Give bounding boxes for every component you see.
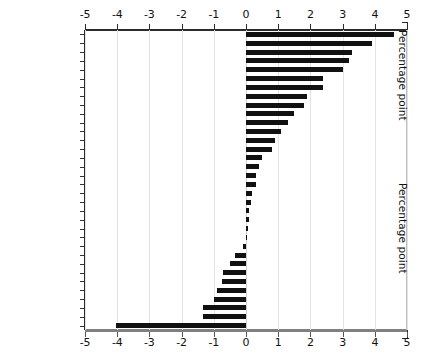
xtick-top-3 xyxy=(343,24,344,29)
axis-title-percentage-point-top: Percentage point xyxy=(397,30,409,121)
xtick-top-2 xyxy=(310,24,311,29)
xticklabel-top-1: 1 xyxy=(275,8,282,21)
ytick-italy xyxy=(80,149,84,150)
xticklabel-bottom--4: -4 xyxy=(112,336,123,349)
ytick-germany xyxy=(80,317,84,318)
xtick-top-1 xyxy=(278,24,279,29)
ytick-new-zealand xyxy=(80,299,84,300)
ytick-chile xyxy=(80,246,84,247)
ytick-netherlands xyxy=(80,290,84,291)
ytick-belgium xyxy=(80,211,84,212)
ytick-finland xyxy=(80,176,84,177)
xtick-top--1 xyxy=(214,24,215,29)
ytick-iceland xyxy=(80,70,84,71)
xtick-top--4 xyxy=(117,24,118,29)
ytick-slovakia xyxy=(80,52,84,53)
horizontal-bar-chart: -5-5-4-4-3-3-2-2-1-1001122334455 Portuga… xyxy=(0,0,442,357)
ytick-luxembourg xyxy=(80,61,84,62)
ytick-greece xyxy=(80,202,84,203)
xtick-top--5 xyxy=(85,24,86,29)
xticklabel-bottom-4: 4 xyxy=(371,336,378,349)
xticklabel-bottom-0: 0 xyxy=(243,336,250,349)
xticklabel-top--3: -3 xyxy=(144,8,155,21)
xtick-top--3 xyxy=(149,24,150,29)
ytick-czech-republic xyxy=(80,193,84,194)
xticklabel-bottom--2: -2 xyxy=(176,336,187,349)
xticklabel-bottom--3: -3 xyxy=(144,336,155,349)
ytick-slovenia xyxy=(80,220,84,221)
ytick-israel xyxy=(80,264,84,265)
ytick-usa xyxy=(80,123,84,124)
ytick-mexico xyxy=(80,43,84,44)
xticklabel-bottom--1: -1 xyxy=(209,336,220,349)
xticklabel-bottom--5: -5 xyxy=(80,336,91,349)
xticklabel-top--2: -2 xyxy=(176,8,187,21)
ytick-denmark xyxy=(80,308,84,309)
ytick-japan xyxy=(80,79,84,80)
ytick-australia xyxy=(80,167,84,168)
xticklabel-top--4: -4 xyxy=(112,8,123,21)
ytick-portugal xyxy=(80,34,84,35)
xticklabel-bottom-5: 5 xyxy=(404,336,411,349)
xticklabel-top-3: 3 xyxy=(339,8,346,21)
ytick-ireland xyxy=(80,105,84,106)
xticklabel-bottom-2: 2 xyxy=(307,336,314,349)
axis-title-percentage-point-bottom: Percentage point xyxy=(397,183,409,274)
xticklabel-top-4: 4 xyxy=(371,8,378,21)
ytick-sweden xyxy=(80,255,84,256)
category-labels-layer: PortugalMexicoSlovakiaLuxembourgIcelandJ… xyxy=(0,30,442,330)
xtick-top-4 xyxy=(375,24,376,29)
ytick-poland xyxy=(80,114,84,115)
xticklabel-top--1: -1 xyxy=(209,8,220,21)
ytick-spain xyxy=(80,87,84,88)
ytick-south-korea xyxy=(80,96,84,97)
xticklabel-top-2: 2 xyxy=(307,8,314,21)
xticklabel-top-0: 0 xyxy=(243,8,250,21)
xticklabel-top--5: -5 xyxy=(80,8,91,21)
ytick-estonia xyxy=(80,158,84,159)
ytick-switzerland xyxy=(80,237,84,238)
ytick-united-kingdom xyxy=(80,281,84,282)
xtick-top-0 xyxy=(246,24,247,29)
ytick-canada xyxy=(80,184,84,185)
xticklabel-top-5: 5 xyxy=(404,8,411,21)
xticklabel-bottom-1: 1 xyxy=(275,336,282,349)
ytick-norway xyxy=(80,229,84,230)
xticklabel-bottom-3: 3 xyxy=(339,336,346,349)
xtick-top-5 xyxy=(407,24,408,29)
xtick-top--2 xyxy=(182,24,183,29)
ytick-france xyxy=(80,273,84,274)
ytick-turkey xyxy=(80,131,84,132)
ytick-austria xyxy=(80,140,84,141)
ytick-hungary xyxy=(80,326,84,327)
